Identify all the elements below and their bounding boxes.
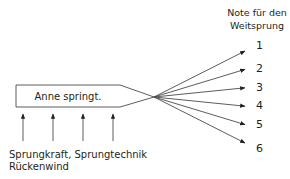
output-label: 4 (256, 99, 263, 112)
output-label: 3 (256, 81, 263, 94)
output-label: 1 (256, 39, 263, 52)
output-label: 5 (256, 118, 263, 131)
output-label: 2 (256, 62, 263, 75)
output-title-line1: Note für den (227, 7, 287, 18)
input-factors-line1: Sprungkraft, Sprungtechnik (9, 149, 147, 160)
diagram-canvas: Note für den Weitsprung Anne springt. 12… (0, 0, 290, 179)
process-label: Anne springt. (34, 91, 101, 102)
output-label: 6 (256, 142, 263, 155)
input-arrows (23, 114, 113, 141)
output-arrows (154, 51, 245, 143)
output-labels: 123456 (256, 39, 263, 155)
input-factors-line2: Rückenwind (9, 161, 69, 172)
output-title-line2: Weitsprung (230, 20, 284, 31)
